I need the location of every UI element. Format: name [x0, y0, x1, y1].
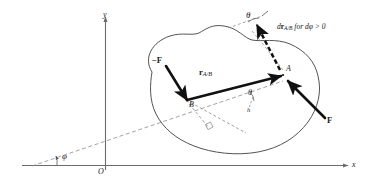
body-boundary-path [148, 26, 319, 154]
y-axis-label: y [103, 11, 107, 19]
point-a-marker [282, 74, 284, 76]
position-vector-label: rA/B [199, 68, 212, 78]
point-b-label: B [189, 101, 194, 109]
point-a-label: A [286, 65, 291, 73]
displacement-subscript: A/B [284, 25, 292, 31]
moment-arm-label: h [247, 107, 250, 114]
right-angle-marker [205, 122, 213, 130]
mechanics-diagram-figure: y x O φ θ θ h A B −F F rA/B drA/B for dφ… [0, 0, 374, 191]
force-negative-label: −F [152, 56, 162, 65]
theta-mid-label: θ [248, 89, 252, 97]
theta-top-label: θ [246, 11, 250, 20]
force-negative-vector [166, 66, 187, 100]
position-vector-subscript: A/B [203, 70, 212, 77]
origin-label: O [98, 168, 104, 176]
position-vector-rab [187, 76, 281, 100]
displacement-vector-label: drA/B for dφ > 0 [277, 23, 325, 32]
rotation-arc-guide [251, 30, 283, 70]
x-axis-label: x [352, 161, 356, 169]
displacement-condition-text: for dφ > 0 [294, 22, 325, 31]
line-of-action-upper [186, 100, 246, 133]
force-positive-label: F [327, 116, 332, 125]
construction-lines [32, 11, 283, 166]
theta-top-tick [262, 11, 268, 16]
phi-angle-label: φ [62, 152, 67, 161]
rigid-body-outline [148, 26, 319, 154]
